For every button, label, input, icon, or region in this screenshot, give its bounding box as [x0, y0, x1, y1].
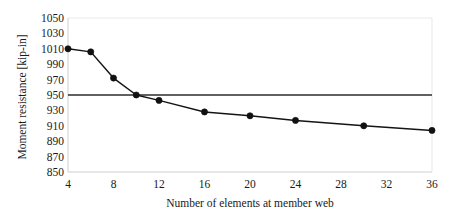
data-point: [133, 92, 139, 98]
y-tick-label: 930: [8, 104, 64, 116]
data-point: [429, 127, 435, 133]
y-tick-label: 870: [8, 151, 64, 163]
y-tick-label: 990: [8, 58, 64, 70]
x-tick-label: 36: [412, 178, 452, 190]
plot-svg: [68, 18, 432, 172]
data-point: [247, 113, 253, 119]
series-markers: [65, 46, 435, 134]
x-tick-label: 32: [367, 178, 407, 190]
x-tick-label: 12: [139, 178, 179, 190]
data-point: [201, 109, 207, 115]
data-point: [361, 123, 367, 129]
x-axis-tick-labels: 4812162024283236: [0, 178, 459, 192]
y-tick-label: 1030: [8, 27, 64, 39]
data-point: [110, 75, 116, 81]
chart-figure: Moment resistance [kip-in] 1050103010109…: [0, 0, 459, 223]
y-tick-label: 1010: [8, 43, 64, 55]
x-tick-label: 24: [276, 178, 316, 190]
x-tick-label: 4: [48, 178, 88, 190]
y-tick-label: 970: [8, 74, 64, 86]
data-point: [156, 97, 162, 103]
y-tick-label: 890: [8, 135, 64, 147]
x-tick-label: 8: [94, 178, 134, 190]
y-tick-label: 910: [8, 120, 64, 132]
x-tick-label: 28: [321, 178, 361, 190]
y-tick-label: 1050: [8, 12, 64, 24]
x-tick-label: 20: [230, 178, 270, 190]
y-tick-label: 850: [8, 166, 64, 178]
data-point: [292, 117, 298, 123]
x-axis-title: Number of elements at member web: [68, 196, 432, 210]
y-tick-label: 950: [8, 89, 64, 101]
data-point: [88, 49, 94, 55]
data-point: [65, 46, 71, 52]
plot-area: [68, 18, 432, 172]
x-tick-label: 16: [185, 178, 225, 190]
